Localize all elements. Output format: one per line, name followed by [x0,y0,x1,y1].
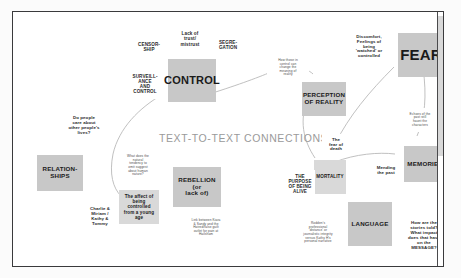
screenshot-root: TEXT-TO-TEXT CONNECTIONS CENSOR- SHIPLac… [0,0,461,278]
node-censorship[interactable]: CENSOR- SHIP [132,37,166,57]
node-link-between[interactable]: Link between Kiara & Sandy and the Hatre… [184,215,228,241]
node-control[interactable]: CONTROL [168,59,216,102]
node-mending-past[interactable]: Mending the past [370,162,402,180]
node-what-does-natural[interactable]: What does the natural tendency to omit s… [117,151,159,181]
node-discomfort[interactable]: Discomfort, Feelings of being 'watched' … [347,32,391,62]
node-surveillance[interactable]: SURVEILL- ANCE AND CONTROL [125,69,165,99]
scrollbar-thumb[interactable] [438,16,443,156]
whiteboard-frame: TEXT-TO-TEXT CONNECTIONS CENSOR- SHIPLac… [12,11,444,267]
connector-control-down-left [113,94,163,154]
node-affect-controlled[interactable]: The affect of being controlled from a yo… [119,190,159,224]
node-language[interactable]: LANGUAGE [348,202,392,246]
node-roddens-distance[interactable]: Rodden's professional 'distance' or jour… [296,218,340,248]
node-segregation[interactable]: SEGRE- GATION [211,36,245,54]
node-relationships[interactable]: RELATION- SHIPS [37,155,83,191]
node-fear-of-death[interactable]: The fear of death [322,134,350,156]
whiteboard-canvas[interactable]: TEXT-TO-TEXT CONNECTIONS CENSOR- SHIPLac… [13,12,443,266]
board-title: TEXT-TO-TEXT CONNECTIONS [159,132,328,144]
node-purpose-alive[interactable]: THE PURPOSE OF BEING ALIVE [285,170,315,198]
node-mortality[interactable]: MORTALITY [314,160,346,194]
node-rebellion[interactable]: REBELLION (or lack of) [173,167,221,207]
node-charlie-miriam[interactable]: Charlie & Miriam / Kathy & Tommy [81,204,119,230]
vertical-scrollbar[interactable] [437,12,443,266]
node-do-people-care[interactable]: Do people care about other people's live… [62,113,106,139]
node-echoes[interactable]: Echoes of the past still haunt the chara… [399,108,441,132]
node-how-those-control[interactable]: How those in control can change the mean… [267,55,309,81]
node-perception[interactable]: PERCEPTION OF REALITY [302,82,346,116]
node-lack-of-trust[interactable]: Lack of trust/ mistrust [174,28,206,50]
